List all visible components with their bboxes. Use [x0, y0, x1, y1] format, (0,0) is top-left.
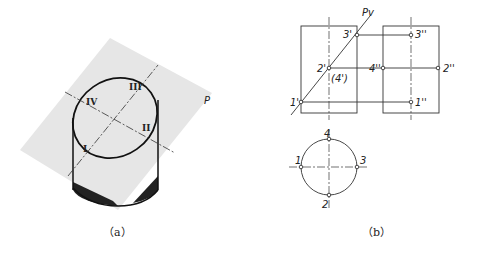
pt-1pp: 1'' — [415, 97, 427, 108]
caption-a: （a） — [103, 226, 132, 239]
pt-4p: (4') — [331, 73, 348, 84]
point-i-label: I — [83, 144, 87, 154]
pt-2p: 2' — [317, 63, 326, 74]
pt-3: 3 — [360, 155, 366, 166]
point-iv-label: IV — [86, 97, 98, 107]
plane-p-label: P — [204, 95, 211, 106]
pt-2: 2 — [322, 199, 328, 210]
pt-2pp: 2'' — [443, 63, 455, 74]
trace-pv-label: Pv — [362, 7, 375, 18]
cutting-plane-p — [20, 38, 212, 210]
pt-3pp: 3'' — [415, 29, 427, 40]
point-ii-label: II — [142, 123, 150, 133]
pt-1p: 1' — [290, 97, 299, 108]
figure-b-labels: Pv 3' 2' (4') 1' 3'' 4'' 2'' 1'' 4 1 3 2… — [290, 7, 455, 239]
trace-pv — [291, 16, 370, 115]
point-iii-label: III — [129, 82, 142, 92]
figure-b — [289, 16, 440, 210]
pt-1: 1 — [295, 155, 301, 166]
pt-4pp: 4'' — [369, 63, 381, 74]
pt-3p: 3' — [343, 29, 352, 40]
figure-canvas: IV III II I P （a） Pv 3' 2' — [0, 0, 477, 256]
figure-a: IV III II I P （a） — [20, 38, 212, 239]
pt-4: 4 — [324, 128, 330, 139]
caption-b: （b） — [362, 226, 391, 239]
